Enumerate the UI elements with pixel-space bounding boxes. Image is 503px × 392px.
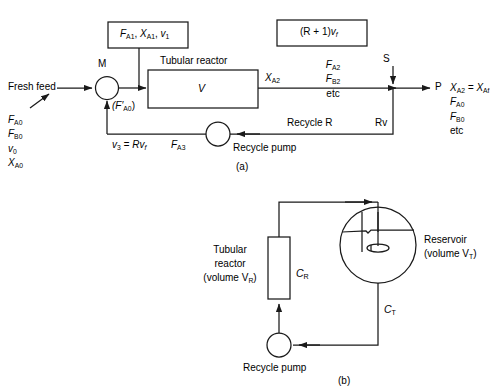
outlet-conv-sub: A2 — [272, 77, 280, 84]
cr-symbol: C — [296, 267, 304, 279]
recycle-volumetric-label: v3 = Rvf — [112, 139, 146, 152]
prod-xa2-symbol: X — [450, 82, 457, 93]
caption-a: (a) — [236, 161, 248, 173]
mixer-node — [96, 77, 119, 100]
recycle-molar-label: FA3 — [171, 139, 185, 152]
inlet-xa1-symbol: X — [140, 28, 147, 39]
mid-stream-composition: FA2 FB2 etc — [313, 58, 353, 100]
recycle-flow-r: Rv — [375, 117, 387, 128]
feed-fb0-sub: B0 — [14, 133, 22, 140]
feed-v0-sub: 0 — [13, 147, 17, 154]
recycle-pump-a — [206, 122, 230, 146]
tubular-reactor-b-body — [268, 237, 290, 299]
mid-fa2-sub: A2 — [332, 64, 340, 71]
mid-fb2-sub: B2 — [332, 78, 340, 85]
reactor-volume-a: V — [198, 82, 205, 94]
mixer-outlet-label: (F′A0) — [112, 100, 135, 113]
recycle-v3-eq: = Rv — [121, 139, 145, 150]
prod-xa2-sub: A2 — [457, 87, 465, 94]
mixer-outlet-symbol: (F′ — [112, 100, 123, 111]
reactor-b-line2: reactor — [197, 257, 263, 271]
outlet-conversion-label: XA2 — [265, 72, 280, 85]
prod-fb0-sub: B0 — [456, 115, 464, 122]
flow-rate-v-sub: f — [336, 31, 338, 38]
prod-xaf-eq: = X — [465, 82, 483, 93]
tubular-reactor-label-b: Tubular reactor (volume VR) — [197, 243, 263, 285]
recycle-ratio-label: Recycle R — [287, 117, 333, 129]
mixer-label: M — [98, 58, 106, 70]
tank-concentration-label: CT — [384, 303, 396, 317]
reactor-concentration-label: CR — [296, 267, 309, 281]
caption-b: (b) — [338, 375, 350, 387]
mixer-outlet-paren: ) — [132, 100, 135, 111]
ct-sub: T — [392, 309, 396, 317]
reactor-b-vol-pre: (volume V — [203, 272, 248, 283]
fresh-feed-label: Fresh feed — [8, 81, 56, 93]
flow-rate-text: (R + 1)vf — [300, 26, 338, 39]
reservoir-vol-close: ) — [473, 248, 476, 259]
outlet-conv-symbol: X — [265, 72, 272, 83]
feed-composition-pointer — [30, 94, 49, 108]
reactor-b-line1: Tubular — [197, 243, 263, 257]
reservoir-label: Reservoir (volume VT) — [424, 233, 477, 261]
feed-fa0-sub: A0 — [14, 119, 22, 126]
recycle-fa3-sub: A3 — [177, 144, 185, 151]
inlet-xa1-sub: A1 — [147, 33, 155, 40]
diagram-linework — [0, 0, 503, 392]
ct-symbol: C — [384, 303, 392, 315]
recycle-flow-label: Rv — [375, 117, 387, 129]
cr-sub: R — [304, 273, 309, 281]
recycle-v3-eq-sub: f — [144, 144, 146, 151]
reactor-to-reservoir-pipe — [279, 202, 378, 237]
prod-etc-label: etc — [450, 125, 463, 136]
reservoir-line1: Reservoir — [424, 233, 477, 247]
reactor-b-vol-close: ) — [253, 272, 256, 283]
figure-canvas: Fresh feed FA0 FB0 v0 XA0 M (F′A0) FA1, … — [0, 0, 503, 392]
inlet-v1-sub: 1 — [166, 33, 170, 40]
reactor-title-a: Tubular reactor — [160, 55, 227, 67]
recycle-pump-label-b: Recycle pump — [243, 362, 306, 374]
prod-xaf-sub: Af — [483, 87, 489, 94]
prod-fa0-sub: A0 — [456, 101, 464, 108]
mid-etc-label: etc — [326, 88, 339, 99]
flow-rate-prefix: (R + 1) — [300, 26, 331, 37]
feed-xa0-symbol: X — [8, 157, 15, 168]
splitter-label: S — [383, 53, 390, 65]
recycle-pump-label-a: Recycle pump — [233, 142, 296, 154]
inlet-composition-text: FA1, XA1, v1 — [120, 28, 169, 41]
reservoir-vol-pre: (volume V — [424, 248, 469, 259]
reservoir-to-pump-pipe — [293, 283, 378, 345]
recycle-pump-b — [267, 333, 291, 357]
product-label: P — [435, 81, 442, 93]
feed-xa0-sub: A0 — [15, 162, 23, 169]
product-stream-composition: XA2 = XAf FA0 FB0 etc — [450, 81, 490, 138]
mixer-outlet-sub: A0 — [123, 105, 131, 112]
feed-stream-composition: FA0 FB0 v0 XA0 — [8, 113, 23, 170]
